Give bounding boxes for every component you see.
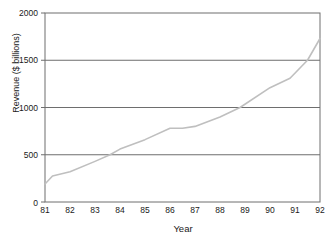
x-axis-title: Year	[45, 223, 321, 234]
revenue-line-chart: Revenue ($ billions) 2000 1500 1000 500 …	[0, 0, 335, 241]
x-tick-label-87: 87	[183, 206, 207, 215]
x-tick-label-91: 91	[283, 206, 307, 215]
x-tick-label-85: 85	[133, 206, 157, 215]
x-tick-label-81: 81	[33, 206, 57, 215]
x-tick-label-88: 88	[208, 206, 232, 215]
x-tick-label-82: 82	[58, 206, 82, 215]
x-tick-label-84: 84	[108, 206, 132, 215]
x-tick-label-86: 86	[158, 206, 182, 215]
x-tick-label-89: 89	[233, 206, 257, 215]
y-axis-ticks	[41, 13, 45, 202]
x-tick-label-83: 83	[83, 206, 107, 215]
horizontal-gridlines	[45, 60, 320, 155]
x-tick-label-92: 92	[308, 206, 332, 215]
x-tick-label-90: 90	[258, 206, 282, 215]
